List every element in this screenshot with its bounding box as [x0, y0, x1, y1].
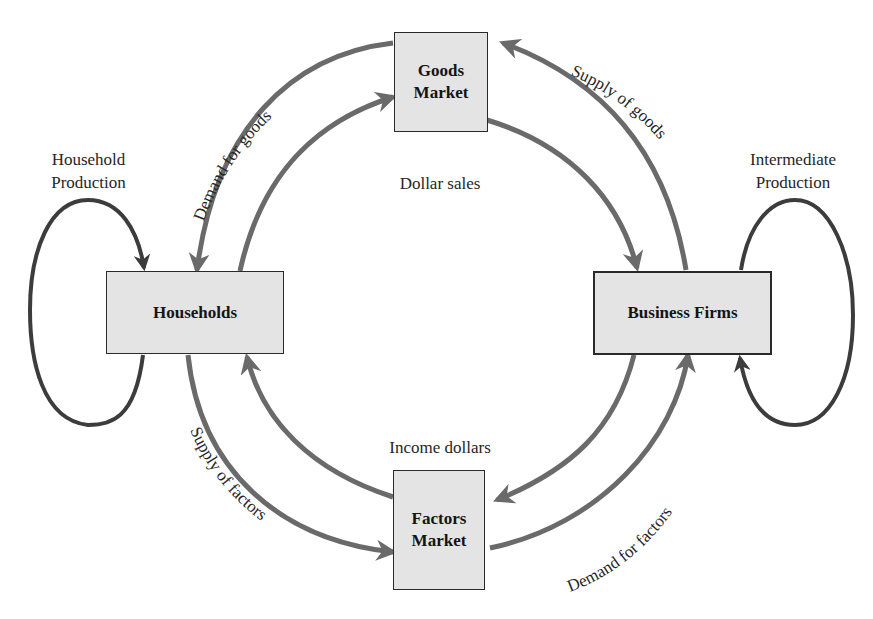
- intermediate-production-label: Intermediate Production: [734, 148, 852, 194]
- factors-market-box: Factors Market: [393, 470, 485, 590]
- business-firms-label: Business Firms: [627, 302, 737, 324]
- factors-market-line1: Factors: [412, 508, 467, 530]
- label-demand-for-factors: Demand for factors: [564, 503, 675, 596]
- households-box: Households: [106, 271, 284, 354]
- households-label: Households: [153, 302, 237, 324]
- label-supply-of-factors: Supply of factors: [186, 424, 270, 524]
- dollar-sales-label: Dollar sales: [385, 172, 495, 195]
- arrow-dollar-sales: [487, 120, 637, 268]
- label-supply-of-goods: Supply of goods: [569, 61, 671, 142]
- goods-market-box: Goods Market: [394, 32, 488, 132]
- goods-market-line1: Goods: [418, 60, 464, 82]
- factors-market-line2: Market: [412, 530, 467, 552]
- business-firms-box: Business Firms: [593, 271, 772, 355]
- income-dollars-label: Income dollars: [370, 436, 510, 459]
- arrow-firms-to-factors-market: [497, 355, 634, 500]
- goods-market-line2: Market: [414, 82, 469, 104]
- household-production-label: Household Production: [36, 148, 141, 194]
- arrow-income-dollars: [247, 357, 393, 497]
